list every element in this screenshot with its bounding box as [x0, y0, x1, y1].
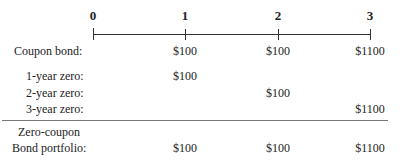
tick-mark-1 [185, 29, 186, 40]
portfolio-label-line2: Bond portfolio: [12, 141, 86, 156]
separator-line [2, 120, 388, 121]
row-label: 2-year zero: [26, 86, 84, 101]
timeline-axis [93, 34, 371, 35]
tick-label-1: 1 [182, 8, 189, 24]
tick-label-2: 2 [275, 8, 282, 24]
row-label: 3-year zero: [26, 102, 84, 117]
cash-flow-year-2: $100 [266, 141, 290, 156]
cash-flow-year-3: $1100 [355, 44, 385, 59]
cash-flow-year-1: $100 [173, 69, 197, 84]
cash-flow-year-3: $1100 [355, 141, 385, 156]
tick-mark-2 [278, 29, 279, 40]
tick-mark-0 [93, 28, 94, 40]
cash-flow-year-2: $100 [266, 44, 290, 59]
portfolio-label-line1: Zero-coupon [18, 125, 80, 140]
cash-flow-year-2: $100 [266, 86, 290, 101]
row-label: 1-year zero: [26, 69, 84, 84]
tick-label-0: 0 [90, 8, 97, 24]
tick-mark-3 [370, 29, 371, 40]
tick-label-3: 3 [367, 8, 374, 24]
cash-flow-year-1: $100 [173, 44, 197, 59]
row-label: Coupon bond: [14, 44, 82, 59]
cash-flow-year-3: $1100 [355, 102, 385, 117]
cash-flow-year-1: $100 [173, 141, 197, 156]
